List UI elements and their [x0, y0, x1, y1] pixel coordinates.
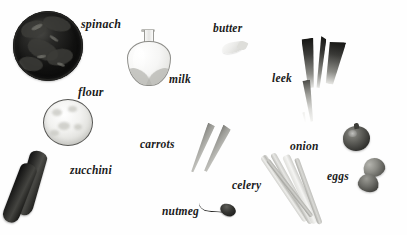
label-spinach: spinach	[81, 18, 121, 30]
label-celery: celery	[232, 180, 261, 192]
celery-icon	[258, 155, 362, 235]
label-leek: leek	[272, 73, 292, 85]
milk-jug-icon	[127, 30, 169, 84]
carrot-icon	[200, 124, 234, 175]
nutmeg-icon	[199, 189, 239, 223]
ingredients-diagram: spinach butter milk leek flour carrots o…	[0, 0, 407, 235]
label-butter: butter	[213, 23, 242, 35]
butter-piece-icon	[222, 40, 246, 56]
label-milk: milk	[169, 74, 191, 86]
label-carrots: carrots	[140, 139, 175, 151]
spinach-bowl-icon	[13, 11, 83, 81]
leek-icon	[292, 36, 348, 122]
label-zucchini: zucchini	[70, 165, 112, 177]
label-onion: onion	[290, 141, 319, 153]
label-flour: flour	[78, 86, 104, 98]
flour-bowl-icon	[43, 99, 93, 146]
label-eggs: eggs	[327, 171, 349, 183]
carrot-icon	[187, 122, 218, 175]
label-nutmeg: nutmeg	[162, 206, 199, 218]
onion-icon	[343, 126, 370, 151]
